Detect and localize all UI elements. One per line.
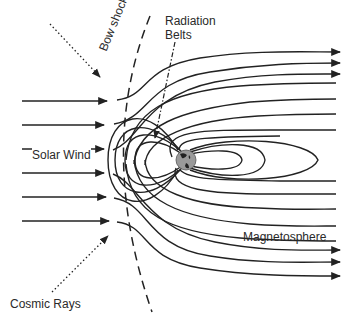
dipole-loops-nightside [190,141,318,179]
magnetosphere-diagram [0,0,352,326]
magnetosphere-label: Magnetosphere [243,230,326,244]
bow-shock-line [123,16,152,312]
radiation-belts-label-line2: Belts [165,28,192,42]
cosmic-rays-label: Cosmic Rays [10,297,81,311]
magnetotail-lines-top [126,83,336,165]
radiation-belts-label-line1: Radiation [165,14,216,28]
earth-icon [176,150,196,170]
solar-wind-label: Solar Wind [32,148,91,162]
magnetotail-lines-bottom [126,160,336,241]
